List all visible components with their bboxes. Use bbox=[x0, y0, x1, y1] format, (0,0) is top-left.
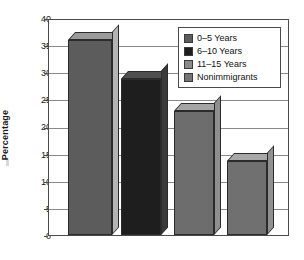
legend-label: 6–10 Years bbox=[197, 46, 242, 56]
scan-artifact bbox=[6, 160, 9, 166]
bar-front bbox=[174, 111, 214, 235]
bar-0-5-years bbox=[68, 40, 112, 235]
legend-swatch-icon bbox=[184, 34, 193, 43]
legend-swatch-icon bbox=[184, 73, 193, 82]
bar-side-face bbox=[267, 145, 274, 235]
bar-chart: Percentage 40 35 30 25 20 15 10 5 0 bbox=[0, 0, 304, 260]
bar-front bbox=[227, 161, 267, 235]
legend-item-nonimmigrants: Nonimmigrants bbox=[184, 71, 275, 83]
legend-item-0-5-years: 0–5 Years bbox=[184, 32, 275, 44]
y-tick-mark bbox=[44, 236, 48, 237]
legend-label: 0–5 Years bbox=[197, 33, 237, 43]
legend: 0–5 Years 6–10 Years 11–15 Years Nonimmi… bbox=[178, 27, 281, 88]
legend-label: 11–15 Years bbox=[197, 59, 246, 69]
legend-label: Nonimmigrants bbox=[197, 72, 258, 82]
legend-swatch-icon bbox=[184, 47, 193, 56]
bar-front bbox=[68, 40, 112, 235]
legend-swatch-icon bbox=[184, 60, 193, 69]
bar-front bbox=[121, 79, 161, 235]
legend-item-6-10-years: 6–10 Years bbox=[184, 45, 275, 57]
bar-side-face bbox=[214, 95, 221, 235]
bar-6-10-years bbox=[121, 79, 161, 235]
legend-item-11-15-years: 11–15 Years bbox=[184, 58, 275, 70]
bar-nonimmigrants bbox=[227, 161, 267, 235]
bar-11-15-years bbox=[174, 111, 214, 235]
y-axis-title: Percentage bbox=[0, 90, 14, 180]
bar-side-face bbox=[112, 24, 119, 235]
bar-side-face bbox=[161, 63, 168, 235]
